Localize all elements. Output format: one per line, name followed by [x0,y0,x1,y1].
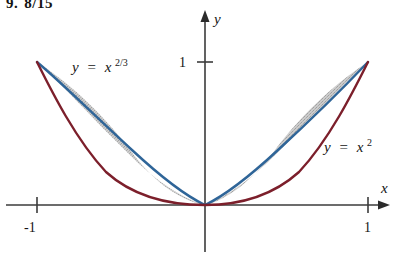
shaded-region-right [205,62,368,205]
curve-upper-label-eq: = [87,59,95,75]
area-between-curves-plot: y x -1 1 1 y = x 2/3 y = x 2 [0,0,404,264]
x-tick-label-negative-one: -1 [24,220,36,235]
y-axis-label: y [212,11,221,27]
curve-upper-label-y: y [70,59,79,75]
x-tick-label-one: 1 [364,220,371,235]
figure-container: 9.8/15 y [0,0,404,264]
y-axis-arrow-icon [201,10,210,22]
curve-lower-label-base: x [356,139,364,155]
curve-lower-label-eq: = [339,139,347,155]
curve-upper-x-two-thirds [37,62,368,205]
curve-lower-x-squared [37,62,368,205]
svg-text:y = x: y = x 2/3 [70,57,128,75]
x-axis-arrow-icon [378,201,390,210]
x-axis-label: x [380,180,388,196]
curve-upper-label-base: x [104,59,112,75]
curve-label-upper: y = x 2/3 [70,57,128,75]
y-tick-label-one: 1 [179,55,186,70]
svg-text:y = x: y = x 2 [322,137,372,155]
curve-lower-label-exponent: 2 [367,137,372,148]
curve-upper-label-exponent: 2/3 [115,57,128,68]
curve-label-lower: y = x 2 [322,137,372,155]
curve-lower-label-y: y [322,139,331,155]
